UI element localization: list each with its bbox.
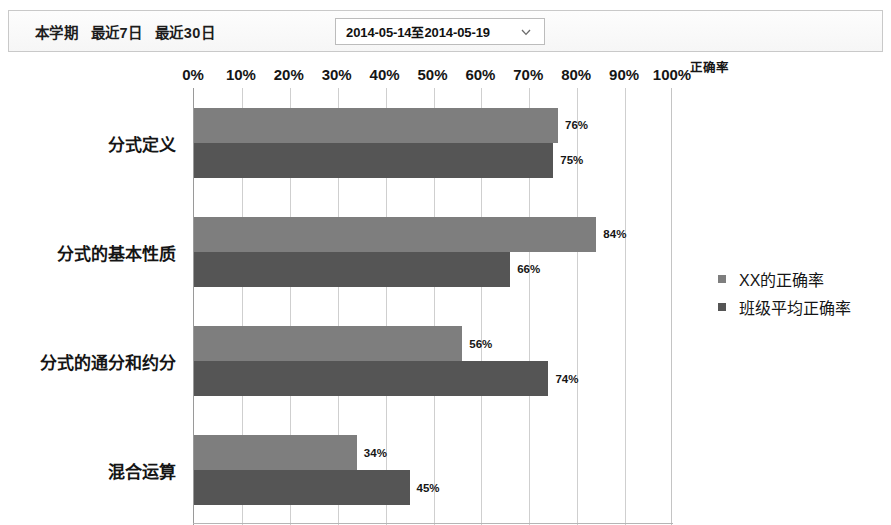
tab-last-7-days[interactable]: 最近7日 — [91, 21, 142, 42]
x-tick-label: 20% — [274, 66, 304, 83]
legend-item[interactable]: XX的正确率 — [718, 265, 888, 293]
gridline — [625, 88, 626, 525]
chevron-down-icon — [520, 26, 532, 38]
x-axis-tick-labels: 0%10%20%30%40%50%60%70%80%90%100% — [0, 66, 891, 86]
filter-toolbar: 本学期 最近7日 最近30日 2014-05-14至2014-05-19 — [8, 10, 883, 52]
bar-value-label: 74% — [555, 373, 578, 385]
x-tick-label: 10% — [226, 66, 256, 83]
x-tick-label: 90% — [609, 66, 639, 83]
bar — [194, 143, 553, 178]
legend-swatch-icon — [718, 303, 726, 311]
x-tick-label: 50% — [417, 66, 447, 83]
tab-last-30-days[interactable]: 最近30日 — [155, 21, 215, 42]
bar-value-label: 84% — [603, 228, 626, 240]
bar — [194, 108, 558, 143]
legend-item[interactable]: 班级平均正确率 — [718, 293, 888, 321]
x-tick-label: 100% — [653, 66, 691, 83]
legend-swatch-icon — [718, 275, 726, 283]
bar-value-label: 75% — [560, 154, 583, 166]
x-tick-label: 80% — [561, 66, 591, 83]
chart-legend: XX的正确率班级平均正确率 — [718, 265, 888, 321]
accuracy-bar-chart: 0%10%20%30%40%50%60%70%80%90%100% 正确率 76… — [0, 53, 891, 525]
x-tick-label: 60% — [465, 66, 495, 83]
category-label: 分式的基本性质 — [57, 239, 176, 264]
legend-label: 班级平均正确率 — [739, 295, 851, 319]
bar — [194, 435, 357, 470]
tab-current-term[interactable]: 本学期 — [35, 21, 78, 42]
x-axis-title: 正确率 — [690, 57, 729, 76]
category-axis-labels: 分式定义分式的基本性质分式的通分和约分混合运算 — [0, 88, 184, 525]
category-label: 分式定义 — [108, 130, 176, 155]
date-range-value: 2014-05-14至2014-05-19 — [346, 22, 490, 41]
bar — [194, 326, 462, 361]
category-label: 混合运算 — [108, 458, 176, 483]
date-range-dropdown[interactable]: 2014-05-14至2014-05-19 — [335, 18, 545, 45]
x-tick-label: 70% — [513, 66, 543, 83]
bar-value-label: 45% — [417, 482, 440, 494]
x-tick-label: 0% — [182, 66, 204, 83]
x-tick-label: 40% — [370, 66, 400, 83]
legend-label: XX的正确率 — [739, 267, 824, 291]
bar-value-label: 66% — [517, 263, 540, 275]
bar-value-label: 76% — [565, 119, 588, 131]
bar — [194, 361, 548, 396]
bar-value-label: 56% — [469, 338, 492, 350]
bar — [194, 470, 410, 505]
x-tick-label: 30% — [322, 66, 352, 83]
time-range-tabs: 本学期 最近7日 最近30日 — [35, 21, 215, 42]
bar — [194, 217, 596, 252]
bar — [194, 252, 510, 287]
plot-bottom-rule — [193, 523, 673, 524]
category-label: 分式的通分和约分 — [40, 349, 176, 374]
plot-area: 76%75%84%66%56%74%34%45% — [193, 88, 672, 525]
bar-value-label: 34% — [364, 447, 387, 459]
